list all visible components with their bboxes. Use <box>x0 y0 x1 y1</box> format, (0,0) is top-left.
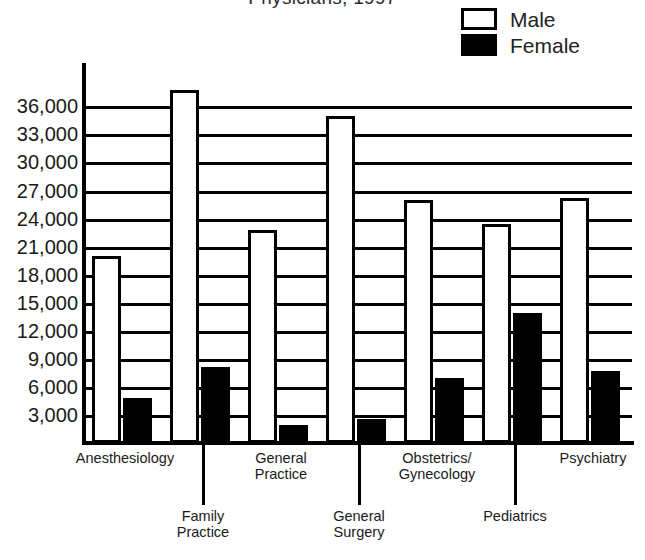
bar-female <box>357 419 386 443</box>
gridline <box>86 162 632 165</box>
x-axis-category-label: Psychiatry <box>541 450 645 466</box>
gridline <box>86 134 632 137</box>
legend-label-female: Female <box>510 35 580 56</box>
y-axis-tick-label: 12,000 <box>17 321 78 341</box>
y-axis-tick-label: 27,000 <box>17 181 78 201</box>
bar-female <box>123 398 152 443</box>
category-connector-tick <box>202 445 205 505</box>
x-axis-category-label: Pediatrics <box>463 508 567 524</box>
legend-label-male: Male <box>510 9 556 30</box>
bar-female <box>435 378 464 443</box>
gridline <box>86 275 632 278</box>
bar-female <box>279 425 308 443</box>
y-axis-tick-label: 9,000 <box>28 349 78 369</box>
y-axis-tick-label: 33,000 <box>17 124 78 144</box>
x-axis-category-label: Anesthesiology <box>73 450 177 466</box>
bar-female <box>201 367 230 443</box>
gridline <box>86 106 632 109</box>
gridline <box>86 415 632 418</box>
gridline <box>86 387 632 390</box>
chart-legend: Male Female <box>461 6 580 58</box>
y-axis-tick-labels: 3,0006,0009,00012,00015,00018,00021,0002… <box>0 0 78 460</box>
bar-chart: Physicians, 1997 Male Female 3,0006,0009… <box>0 0 645 560</box>
category-connector-tick <box>358 445 361 505</box>
legend-swatch-male-icon <box>461 8 497 30</box>
bar-male <box>326 116 355 443</box>
x-axis-category-label: Family Practice <box>151 508 255 540</box>
gridline <box>86 359 632 362</box>
x-axis-category-label: Obstetrics/ Gynecology <box>385 450 489 482</box>
y-axis-tick-label: 18,000 <box>17 265 78 285</box>
plot-area <box>86 83 632 443</box>
bar-male <box>248 230 277 443</box>
y-axis-tick-label: 30,000 <box>17 152 78 172</box>
legend-swatch-female-icon <box>461 34 497 56</box>
bar-male <box>482 224 511 443</box>
gridline <box>86 331 632 334</box>
y-axis-tick-label: 3,000 <box>28 405 78 425</box>
gridline <box>86 191 632 194</box>
bar-male <box>404 200 433 443</box>
y-axis-tick-label: 21,000 <box>17 237 78 257</box>
y-axis-tick-label: 24,000 <box>17 209 78 229</box>
gridline <box>86 219 632 222</box>
y-axis-tick-label: 15,000 <box>17 293 78 313</box>
gridline <box>86 303 632 306</box>
y-axis-tick-label: 36,000 <box>17 96 78 116</box>
x-axis-category-label: General Surgery <box>307 508 411 540</box>
legend-item-female: Female <box>461 32 580 58</box>
category-connector-tick <box>514 445 517 505</box>
bar-male <box>560 198 589 443</box>
y-axis-tick-label: 6,000 <box>28 377 78 397</box>
bar-male <box>170 90 199 443</box>
legend-item-male: Male <box>461 6 580 32</box>
gridline <box>86 247 632 250</box>
bar-female <box>513 313 542 443</box>
x-axis-category-label: General Practice <box>229 450 333 482</box>
bar-male <box>92 256 121 443</box>
bar-female <box>591 371 620 443</box>
